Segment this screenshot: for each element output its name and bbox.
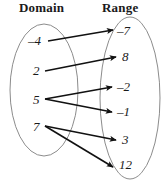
range-value-3: –2 xyxy=(117,79,130,95)
arrow-5-to-neg1 xyxy=(45,99,112,112)
mapping-diagram-figure: Domain Range –4 2 5 7 –7 8 –2 –1 3 12 xyxy=(0,0,166,182)
domain-value-2: 2 xyxy=(33,63,40,79)
arrow-5-to-neg2 xyxy=(45,87,112,99)
range-value-1: –7 xyxy=(117,23,130,39)
range-value-6: 12 xyxy=(119,157,132,173)
arrow-2-to-8 xyxy=(45,57,116,71)
range-value-5: 3 xyxy=(122,132,129,148)
domain-value-1: –4 xyxy=(28,33,41,49)
domain-value-3: 5 xyxy=(33,92,40,108)
range-value-2: 8 xyxy=(122,49,129,65)
range-ellipse xyxy=(100,17,160,179)
range-value-4: –1 xyxy=(117,104,130,120)
domain-ellipse xyxy=(10,24,78,156)
arrow-neg4-to-neg7 xyxy=(48,30,113,41)
domain-value-4: 7 xyxy=(33,119,40,135)
diagram-canvas xyxy=(0,0,166,182)
